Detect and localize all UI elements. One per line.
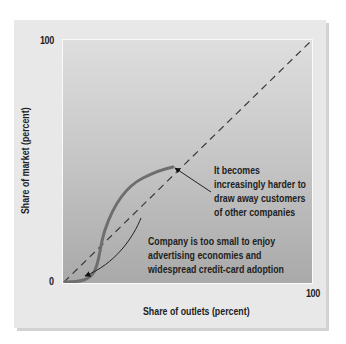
annotation-lower-line: advertising economies and <box>148 248 284 262</box>
upper-annotation-arrow <box>175 168 211 192</box>
annotation-upper: It becomes increasingly harder to draw a… <box>214 163 306 219</box>
y-axis-label: Share of market (percent) <box>19 107 31 214</box>
y-tick-100: 100 <box>40 34 54 46</box>
y-tick-0: 0 <box>49 275 54 287</box>
annotation-upper-line: It becomes <box>214 163 306 177</box>
annotation-upper-line: draw away customers <box>214 191 306 205</box>
lower-annotation-arrow <box>85 218 141 276</box>
annotation-lower: Company is too small to enjoy advertisin… <box>148 234 284 276</box>
annotation-lower-line: Company is too small to enjoy <box>148 234 284 248</box>
annotation-upper-line: increasingly harder to <box>214 177 306 191</box>
x-axis-label: Share of outlets (percent) <box>143 305 250 317</box>
annotation-upper-line: of other companies <box>214 205 306 219</box>
x-tick-100: 100 <box>306 287 320 299</box>
annotation-lower-line: widespread credit-card adoption <box>148 262 284 276</box>
